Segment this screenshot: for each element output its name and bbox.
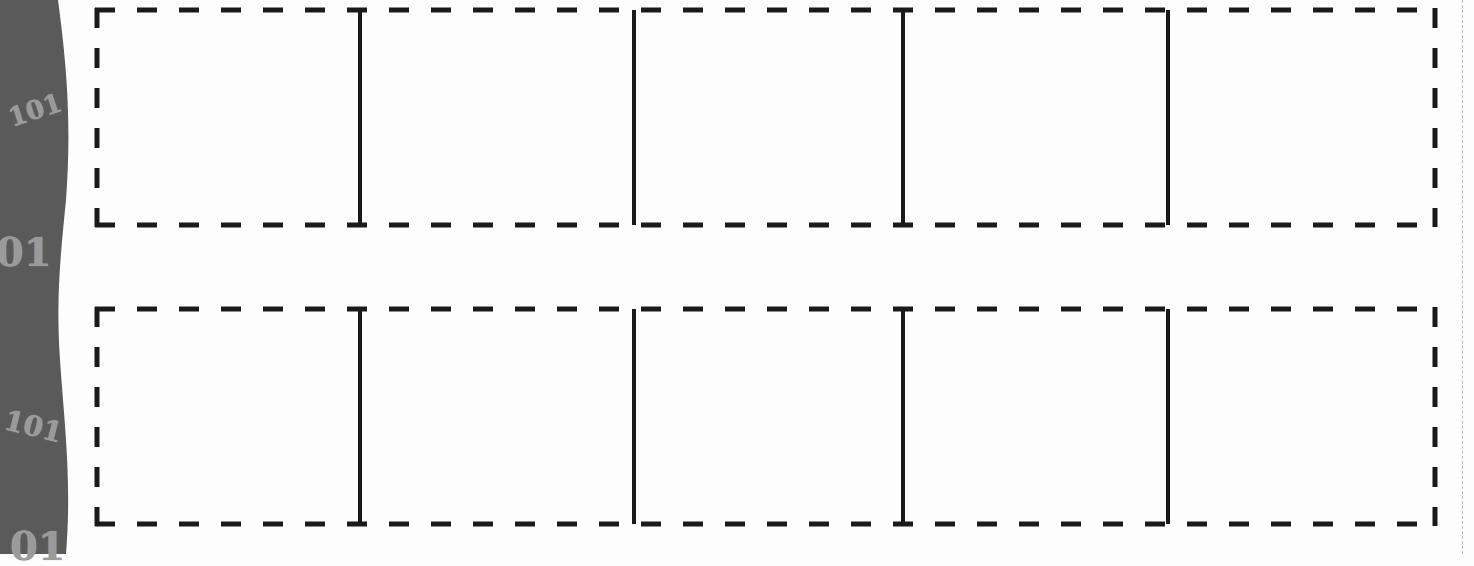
answer-cell[interactable]	[634, 307, 903, 526]
answer-cell[interactable]	[903, 307, 1168, 526]
answer-cell[interactable]	[360, 8, 634, 227]
answer-cell[interactable]	[95, 307, 360, 526]
wavy-strip-shape	[0, 0, 80, 554]
answer-cell[interactable]	[1168, 307, 1437, 526]
binary-decoration: 01	[0, 228, 52, 275]
answer-cell[interactable]	[634, 8, 903, 227]
answer-cell[interactable]	[360, 307, 634, 526]
cut-line-divider	[1462, 0, 1463, 554]
answer-cell[interactable]	[1168, 8, 1437, 227]
decorative-binary-strip: 101 01 101 01	[0, 0, 80, 554]
answer-cell[interactable]	[95, 8, 360, 227]
binary-decoration: 01	[10, 522, 66, 566]
worksheet-row-1	[95, 8, 1437, 227]
answer-cell[interactable]	[903, 8, 1168, 227]
worksheet-row-2	[95, 307, 1437, 526]
